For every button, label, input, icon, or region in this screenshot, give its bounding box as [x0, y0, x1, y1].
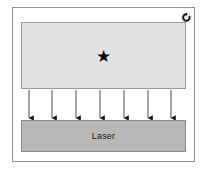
- laser-label: Laser: [92, 131, 116, 141]
- figure-canvas: ★ Laser: [0, 0, 208, 169]
- sample-block: ★: [21, 22, 186, 89]
- star-marker: ★: [22, 47, 185, 64]
- laser-block: Laser: [21, 120, 186, 152]
